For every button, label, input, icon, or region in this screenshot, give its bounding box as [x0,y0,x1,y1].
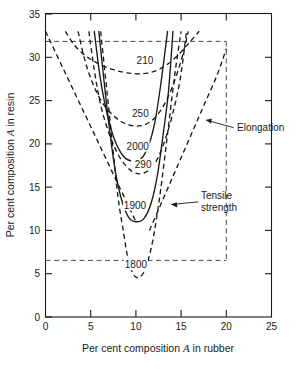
y-tick-label: 25 [29,95,41,106]
x-tick-label: 20 [221,321,233,332]
contour-label-1900: 1900 [124,200,147,211]
x-tick-label: 10 [130,321,142,332]
chart-svg: 0 5 10 15 20 25 30 35 0 5 10 15 20 25 18… [0,0,299,390]
elongation-annotation: Elongation [206,119,284,133]
y-tick-labels: 0 5 10 15 20 25 30 35 [29,9,41,323]
tensile-strength-annotation-line1: Tensile [201,190,233,201]
tensile-strength-annotation: Tensile strength [171,190,237,213]
elongation-annotation-label: Elongation [237,122,284,133]
x-tick-label: 15 [176,321,188,332]
contour-label-250: 250 [132,108,149,119]
y-tick-label: 20 [29,138,41,149]
y-tick-label: 10 [29,225,41,236]
contour-label-210: 210 [137,55,154,66]
x-tick-label: 5 [88,321,94,332]
y-axis-title: Per cent composition A in resin [4,93,16,238]
y-tick-label: 30 [29,52,41,63]
svg-text:Per cent composition A in rubb: Per cent composition A in rubber [82,342,235,354]
chart-figure: 0 5 10 15 20 25 30 35 0 5 10 15 20 25 18… [0,0,299,390]
x-axis-title: Per cent composition A in rubber [82,342,235,354]
x-tick-label: 0 [43,321,49,332]
contour-label-2000: 2000 [127,141,150,152]
y-axis-title-text: Per cent composition [4,136,16,237]
svg-text:Per cent composition A in resi: Per cent composition A in resin [4,93,16,238]
y-tick-label: 5 [34,268,40,279]
y-axis-title-text-post: in resin [4,93,16,130]
x-axis-title-text-post: in rubber [190,342,235,354]
contour-curves [46,31,227,277]
contour-labels: 180019002000290250210 [123,55,157,270]
y-tick-label: 35 [29,9,41,20]
tensile-strength-annotation-line2: strength [201,202,237,213]
x-tick-label: 25 [266,321,278,332]
x-tick-labels: 0 5 10 15 20 25 [43,321,278,332]
contour-label-1800: 1800 [125,259,148,270]
y-tick-label: 0 [34,312,40,323]
x-axis-title-text: Per cent composition [82,342,183,354]
y-tick-label: 15 [29,182,41,193]
contour-label-290: 290 [135,159,152,170]
